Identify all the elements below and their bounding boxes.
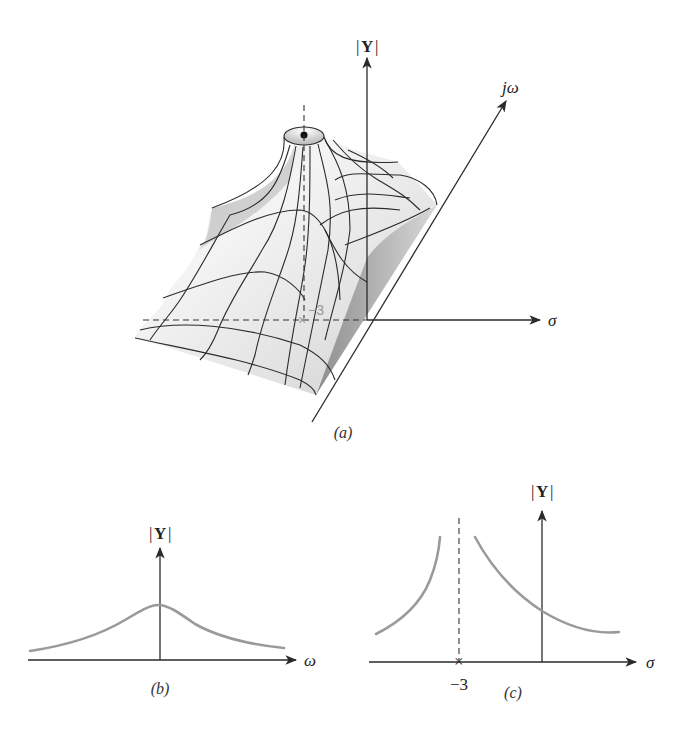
y-axis-label-c: |	[531, 482, 534, 501]
y-axis-label-c-inner: Y	[536, 482, 548, 501]
magnitude-curve-c-right	[475, 537, 619, 633]
panel-a-3d-surface: | Y | jω σ × −3 (a)	[135, 37, 557, 442]
panel-c-sigma-response: × | Y | σ −3 (c)	[369, 482, 655, 702]
caption-c: (c)	[504, 684, 522, 702]
sigma-axis-label-c: σ	[646, 653, 655, 672]
pole-label-a: −3	[308, 302, 324, 318]
figure-canvas: | Y | jω σ × −3 (a) | Y | ω (b) × |	[0, 0, 693, 740]
caption-b: (b)	[151, 680, 170, 698]
omega-axis-label-b: ω	[304, 651, 316, 670]
y-axis-label-b-close: |	[168, 524, 171, 543]
sigma-axis-label-a: σ	[548, 311, 557, 330]
pole-x-marker-a: ×	[298, 312, 306, 328]
jw-axis-label-a: jω	[500, 78, 519, 97]
y-axis-label-c-close: |	[550, 482, 553, 501]
caption-a: (a)	[334, 424, 353, 442]
y-axis-label-b: |	[149, 524, 152, 543]
y-axis-label-a: |	[356, 37, 359, 56]
y-axis-label-a-close: |	[375, 37, 378, 56]
magnitude-curve-c-left	[376, 537, 440, 634]
pole-x-marker-c: ×	[454, 652, 464, 671]
y-axis-label-b-inner: Y	[154, 524, 166, 543]
pole-label-c: −3	[450, 675, 468, 694]
panel-b-jw-response: | Y | ω (b)	[28, 524, 316, 698]
y-axis-label-a-inner: Y	[361, 37, 373, 56]
magnitude-curve-b	[30, 605, 284, 651]
